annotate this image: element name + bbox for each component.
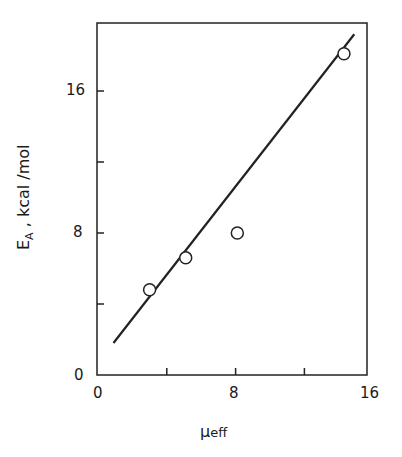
plot-frame xyxy=(97,23,367,375)
axis-ticks xyxy=(97,91,304,375)
y-tick-16: 16 xyxy=(66,81,85,99)
x-tick-16: 16 xyxy=(360,384,379,402)
data-point xyxy=(180,252,192,264)
data-point xyxy=(231,227,243,239)
y-tick-8: 8 xyxy=(73,223,83,241)
data-point xyxy=(144,284,156,296)
y-tick-0: 0 xyxy=(74,366,84,384)
y-axis-label: EA , kcal /mol xyxy=(14,144,36,250)
x-tick-8: 8 xyxy=(229,384,239,402)
chart-plot xyxy=(0,0,402,457)
x-axis-label: μeff xyxy=(200,422,227,441)
x-tick-0: 0 xyxy=(93,384,103,402)
data-point xyxy=(338,48,350,60)
fit-line xyxy=(113,34,354,343)
